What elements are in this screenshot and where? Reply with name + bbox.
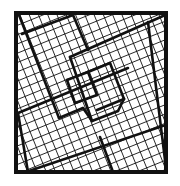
grid-line <box>0 0 180 186</box>
rotated-grid-diagram <box>0 0 180 186</box>
grid-line <box>0 0 180 5</box>
rotated-thin-grid <box>0 0 180 186</box>
grid-line <box>0 0 180 21</box>
thick-segment <box>88 63 110 72</box>
grid-line <box>101 0 180 186</box>
grid-line <box>0 0 90 186</box>
grid-line <box>0 0 10 186</box>
thick-segment <box>73 15 88 50</box>
thick-segment <box>26 125 166 172</box>
grid-line <box>0 0 2 186</box>
